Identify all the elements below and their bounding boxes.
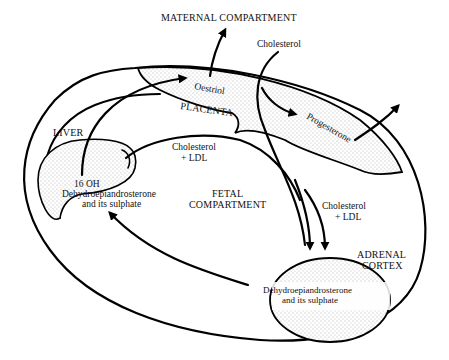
maternal-compartment-label: MATERNAL COMPARTMENT bbox=[161, 12, 297, 23]
ldl-left-label-2: + LDL bbox=[181, 153, 207, 163]
adrenal-cortex-label-1: ADRENAL bbox=[357, 249, 406, 260]
liver-label: LIVER bbox=[53, 127, 84, 138]
liver-product-line-2: Dehydroepiandrosterone bbox=[62, 189, 156, 199]
ldl-right-label-2: + LDL bbox=[335, 212, 361, 222]
adrenal-to-liver-arrow bbox=[110, 213, 248, 285]
adrenal-product-line-1: Dehydroepiandrosterone bbox=[263, 285, 352, 295]
adrenal-cortex-label-2: CORTEX bbox=[362, 260, 403, 271]
fetal-compartment-label-2: COMPARTMENT bbox=[189, 199, 266, 210]
cholesterol-maternal-label: Cholesterol bbox=[257, 39, 301, 49]
steroid-pathway-diagram: MATERNAL COMPARTMENT Cholesterol Oestrio… bbox=[0, 0, 449, 360]
ldl-left-label-1: Cholesterol bbox=[172, 142, 216, 152]
liver-product-line-1: 16 OH bbox=[74, 179, 100, 189]
liver-product-line-3: and its sulphate bbox=[82, 199, 141, 209]
ldl-to-adrenal-arrow-1 bbox=[295, 180, 310, 248]
adrenal-product-line-2: and its sulphate bbox=[282, 295, 338, 305]
fetal-compartment-label-1: FETAL bbox=[212, 188, 243, 199]
ldl-right-label-1: Cholesterol bbox=[322, 201, 366, 211]
